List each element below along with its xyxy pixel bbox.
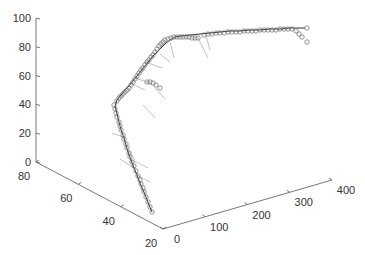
y-tick-label: 40: [103, 215, 115, 227]
residual-line: [198, 38, 208, 58]
x-tick: [202, 215, 205, 217]
z-tick: [36, 76, 40, 77]
chart-3d-plot: 020406080100204060800100200300400: [0, 0, 365, 255]
x-tick-label: 0: [174, 233, 180, 245]
y-tick: [121, 205, 124, 207]
z-tick-label: 80: [19, 41, 31, 53]
z-tick: [36, 104, 40, 105]
data-point-marker: [166, 37, 170, 41]
z-tick-label: 20: [19, 127, 31, 139]
y-tick-label: 20: [145, 237, 157, 249]
residual-line: [206, 36, 210, 50]
residual-line: [143, 105, 155, 118]
z-tick: [36, 47, 40, 48]
x-tick-label: 300: [295, 196, 313, 208]
z-tick-label: 100: [13, 12, 31, 24]
z-tick-label: 0: [25, 156, 31, 168]
x-tick: [287, 190, 290, 192]
z-tick-label: 40: [19, 98, 31, 110]
x-tick-label: 200: [252, 209, 270, 221]
y-tick: [78, 182, 81, 184]
z-tick-label: 60: [19, 70, 31, 82]
x-tick: [245, 203, 248, 205]
data-point-marker: [305, 40, 309, 44]
data-markers: [112, 26, 309, 214]
axes: [36, 18, 332, 229]
y-tick: [36, 160, 39, 162]
data-point-marker: [305, 26, 309, 30]
y-tick-label: 60: [60, 192, 72, 204]
y-tick-label: 80: [18, 170, 30, 182]
residual-line: [160, 54, 170, 62]
data-point-marker: [158, 86, 162, 90]
x-tick-label: 100: [210, 221, 228, 233]
z-tick: [36, 162, 40, 163]
residual-vectors: [112, 36, 210, 182]
x-tick-label: 400: [337, 184, 355, 196]
residual-line: [170, 42, 174, 58]
x-tick: [329, 178, 332, 180]
z-tick: [36, 18, 40, 19]
tick-marks: [36, 18, 332, 229]
residual-line: [155, 88, 165, 99]
z-tick: [36, 133, 40, 134]
data-point-marker: [300, 35, 304, 39]
tick-labels: 020406080100204060800100200300400: [13, 12, 356, 249]
